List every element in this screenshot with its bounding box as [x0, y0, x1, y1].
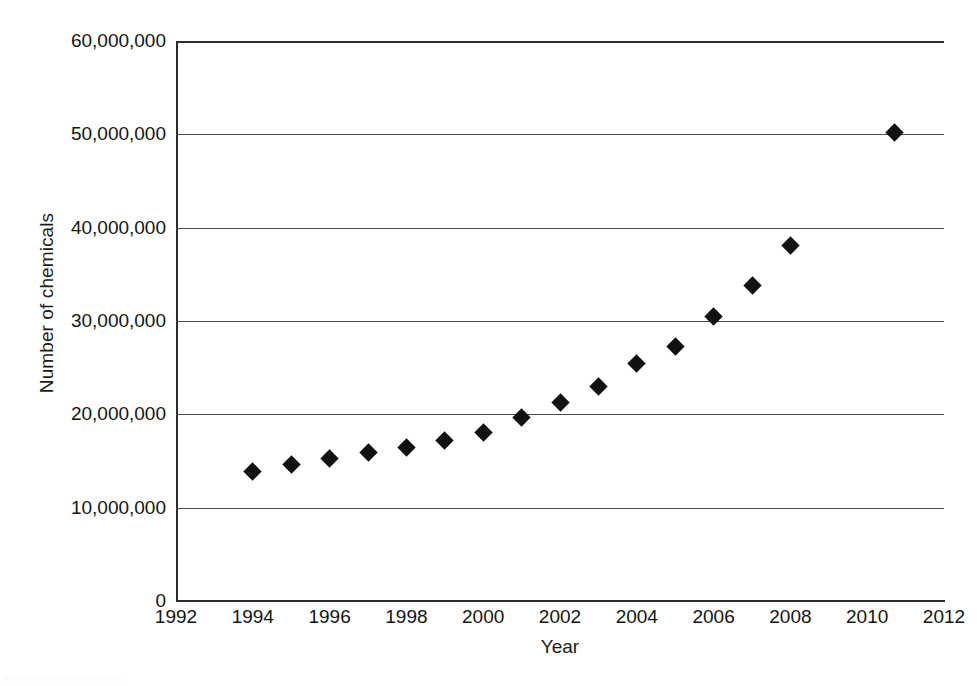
gridline [176, 508, 944, 509]
x-tick-label: 2012 [894, 606, 980, 628]
data-point-marker [282, 456, 300, 474]
data-point-marker [628, 355, 646, 373]
y-tick-label: 60,000,000 [6, 31, 166, 50]
data-point-marker [397, 439, 415, 457]
data-point-marker [244, 462, 262, 480]
scan-artifact [4, 676, 122, 681]
data-point-marker [551, 393, 569, 411]
data-point-marker [320, 449, 338, 467]
gridline [176, 41, 944, 43]
y-tick-label: 20,000,000 [6, 404, 166, 423]
data-point-marker [474, 423, 492, 441]
data-point-marker [743, 276, 761, 294]
data-point-marker [885, 123, 903, 141]
data-point-marker [359, 443, 377, 461]
gridline [176, 228, 944, 229]
gridline [176, 414, 944, 415]
data-point-marker [436, 431, 454, 449]
y-tick-label: 50,000,000 [6, 124, 166, 143]
y-tick-label: 30,000,000 [6, 311, 166, 330]
x-axis-tick-labels: 1992199419961998200020022004200620082010… [0, 606, 980, 636]
data-point-marker [512, 408, 530, 426]
x-axis-title: Year [176, 636, 944, 658]
y-tick-label: 40,000,000 [6, 218, 166, 237]
data-point-marker [666, 337, 684, 355]
y-axis-tick-labels: 010,000,00020,000,00030,000,00040,000,00… [0, 0, 166, 686]
data-point-marker [704, 307, 722, 325]
gridline [176, 321, 944, 322]
chart-figure: Number of chemicals 010,000,00020,000,00… [0, 0, 980, 686]
plot-area [176, 41, 944, 601]
y-tick-label: 10,000,000 [6, 498, 166, 517]
gridline [176, 134, 944, 135]
data-point-marker [781, 236, 799, 254]
data-point-marker [589, 377, 607, 395]
